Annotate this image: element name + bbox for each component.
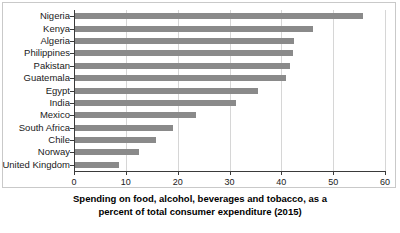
x-tick-mark: [333, 171, 334, 175]
y-axis-category-label: Norway: [38, 147, 70, 157]
gridline: [333, 10, 334, 171]
x-tick-mark: [178, 171, 179, 175]
x-axis-title-line-2: percent of total consumer expenditure (2…: [0, 205, 400, 218]
bar: [75, 38, 294, 44]
bar: [75, 13, 363, 19]
y-axis-category-label: Kenya: [43, 24, 70, 34]
y-axis-category-label: Algeria: [40, 36, 70, 46]
y-tick-mark: [70, 152, 74, 153]
y-tick-mark: [70, 53, 74, 54]
x-tick-label: 0: [71, 177, 76, 187]
x-tick-mark: [281, 171, 282, 175]
y-axis-category-label: South Africa: [19, 123, 70, 133]
plot-area: 0102030405060: [74, 10, 385, 172]
bar: [75, 88, 258, 94]
x-axis-title: Spending on food, alcohol, beverages and…: [0, 192, 400, 218]
bar: [75, 137, 156, 143]
bar: [75, 125, 173, 131]
bar: [75, 75, 286, 81]
x-tick-label: 20: [173, 177, 183, 187]
bar: [75, 149, 139, 155]
y-axis-category-label: Egypt: [46, 86, 70, 96]
x-tick-label: 50: [328, 177, 338, 187]
bar: [75, 50, 293, 56]
y-axis-category-label: Pakistan: [34, 61, 70, 71]
y-tick-mark: [70, 91, 74, 92]
y-tick-mark: [70, 140, 74, 141]
x-tick-mark: [126, 171, 127, 175]
bar: [75, 26, 313, 32]
x-tick-label: 60: [380, 177, 390, 187]
y-tick-mark: [70, 78, 74, 79]
y-axis-category-label: United Kingdom: [2, 160, 70, 170]
y-axis-category-label: Chile: [48, 135, 70, 145]
x-tick-label: 10: [121, 177, 131, 187]
bar: [75, 63, 290, 69]
x-tick-mark: [230, 171, 231, 175]
x-tick-mark: [74, 171, 75, 175]
y-axis-category-label: Philippines: [24, 48, 70, 58]
y-axis-category-label: Nigeria: [40, 11, 70, 21]
gridline: [385, 10, 386, 171]
x-axis-title-line-1: Spending on food, alcohol, beverages and…: [0, 192, 400, 205]
bar: [75, 100, 236, 106]
x-tick-label: 40: [276, 177, 286, 187]
y-tick-mark: [70, 103, 74, 104]
x-tick-label: 30: [224, 177, 234, 187]
bar-chart: 0102030405060 NigeriaKenyaAlgeriaPhilipp…: [0, 0, 400, 233]
y-axis-category-label: India: [49, 98, 70, 108]
y-tick-mark: [70, 41, 74, 42]
y-tick-mark: [70, 66, 74, 67]
y-axis-category-label: Mexico: [40, 110, 70, 120]
x-tick-mark: [385, 171, 386, 175]
y-axis-category-label: Guatemala: [24, 73, 70, 83]
y-tick-mark: [70, 115, 74, 116]
bar: [75, 112, 196, 118]
y-tick-mark: [70, 165, 74, 166]
gridline: [281, 10, 282, 171]
y-tick-mark: [70, 16, 74, 17]
y-tick-mark: [70, 29, 74, 30]
y-tick-mark: [70, 128, 74, 129]
bar: [75, 162, 119, 168]
